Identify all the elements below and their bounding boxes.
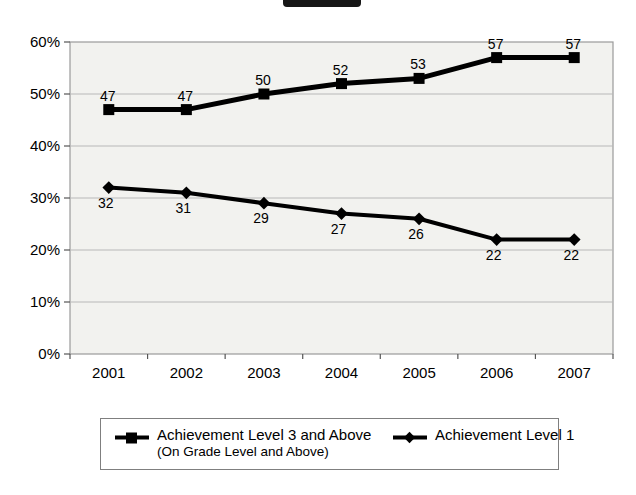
data-point-marker bbox=[491, 52, 502, 63]
data-point-marker bbox=[103, 104, 114, 115]
chart-page: 0%10%20%30%40%50%60%20012002200320042005… bbox=[0, 0, 636, 495]
x-axis-label: 2005 bbox=[402, 364, 435, 381]
square-marker-icon bbox=[114, 431, 150, 444]
x-axis-label: 2003 bbox=[247, 364, 280, 381]
data-point-marker bbox=[258, 89, 269, 100]
data-point-marker bbox=[569, 52, 580, 63]
y-axis-label: 60% bbox=[30, 33, 60, 50]
data-point-marker bbox=[414, 73, 425, 84]
y-axis-label: 40% bbox=[30, 137, 60, 154]
x-axis-label: 2006 bbox=[480, 364, 513, 381]
x-axis-label: 2002 bbox=[170, 364, 203, 381]
data-point-marker bbox=[336, 78, 347, 89]
x-axis-label: 2001 bbox=[92, 364, 125, 381]
data-point-label: 27 bbox=[331, 221, 347, 237]
data-point-label: 52 bbox=[333, 62, 349, 78]
line-chart: 0%10%20%30%40%50%60%20012002200320042005… bbox=[0, 0, 636, 410]
legend-label-level1: Achievement Level 1 bbox=[435, 426, 574, 444]
data-point-label: 26 bbox=[408, 226, 424, 242]
data-point-label: 32 bbox=[98, 195, 114, 211]
y-axis-label: 0% bbox=[38, 345, 60, 362]
legend-entry-level3: Achievement Level 3 and Above (On Grade … bbox=[114, 426, 371, 460]
data-point-label: 22 bbox=[486, 247, 502, 263]
diamond-marker-icon bbox=[392, 431, 428, 444]
data-point-label: 57 bbox=[488, 36, 504, 52]
data-point-marker bbox=[181, 104, 192, 115]
y-axis-label: 30% bbox=[30, 189, 60, 206]
data-point-label: 22 bbox=[563, 247, 579, 263]
legend-label-level3: Achievement Level 3 and Above bbox=[157, 426, 371, 444]
data-point-label: 47 bbox=[178, 88, 194, 104]
y-axis-label: 20% bbox=[30, 241, 60, 258]
data-point-label: 53 bbox=[410, 56, 426, 72]
data-point-label: 50 bbox=[255, 72, 271, 88]
x-axis-label: 2007 bbox=[558, 364, 591, 381]
data-point-label: 29 bbox=[253, 210, 269, 226]
x-axis-label: 2004 bbox=[325, 364, 358, 381]
y-axis-label: 50% bbox=[30, 85, 60, 102]
data-point-label: 31 bbox=[176, 200, 192, 216]
legend-entry-level1: Achievement Level 1 bbox=[392, 426, 574, 444]
data-point-label: 47 bbox=[100, 88, 116, 104]
y-axis-label: 10% bbox=[30, 293, 60, 310]
legend: Achievement Level 3 and Above (On Grade … bbox=[100, 418, 559, 470]
data-point-label: 57 bbox=[565, 36, 581, 52]
legend-sublabel-level3: (On Grade Level and Above) bbox=[157, 444, 371, 460]
